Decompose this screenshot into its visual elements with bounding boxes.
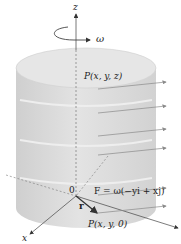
x-axis-label: x <box>22 233 27 243</box>
field-equation-label: F = ω(−yi + xj) <box>94 186 165 196</box>
r-vector-label: r <box>79 201 84 211</box>
z-axis-label: z <box>73 2 78 12</box>
omega-label: ω <box>96 33 104 44</box>
point-bottom-label: P(x, y, 0) <box>88 219 127 229</box>
diagram-canvas <box>0 0 181 244</box>
origin-label: 0 <box>69 185 75 195</box>
point-top-label: P(x, y, z) <box>84 71 122 81</box>
rotation-arrow-icon <box>54 27 90 40</box>
